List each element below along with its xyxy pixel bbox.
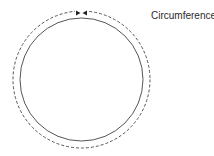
solid-circle bbox=[20, 18, 143, 141]
circle-diagram bbox=[0, 0, 214, 156]
dashed-circumference-circle bbox=[13, 11, 150, 148]
circumference-label: Circumference bbox=[151, 10, 214, 21]
